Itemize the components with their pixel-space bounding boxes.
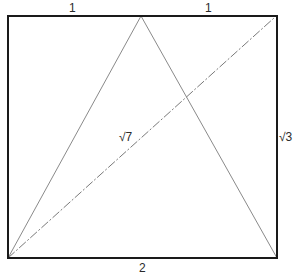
label-bottom-side-length: 2 bbox=[139, 262, 146, 274]
triangle-right-side bbox=[141, 16, 277, 258]
label-top-left-segment: 1 bbox=[69, 2, 76, 14]
geometry-diagram: 1 1 √7 √3 2 bbox=[0, 0, 295, 276]
label-top-right-segment: 1 bbox=[205, 2, 212, 14]
dashed-diagonal bbox=[8, 18, 274, 258]
label-diagonal-length: √7 bbox=[119, 131, 132, 143]
diagram-svg bbox=[0, 0, 295, 276]
label-right-side-length: √3 bbox=[279, 131, 292, 143]
